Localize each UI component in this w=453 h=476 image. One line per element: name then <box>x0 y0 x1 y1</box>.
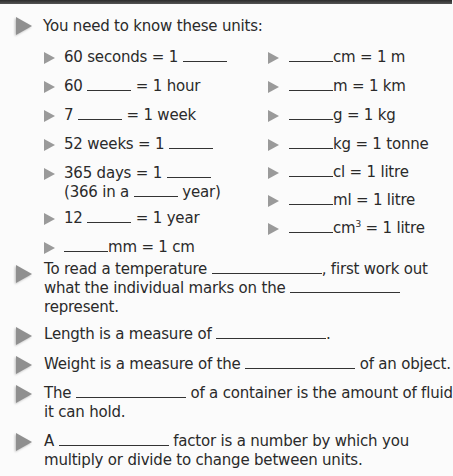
unit-cl: cl = 1 litre <box>289 163 409 182</box>
unit-g: g = 1 kg <box>289 106 396 125</box>
answer-blank[interactable] <box>289 163 333 177</box>
bullet-arrow-icon <box>16 17 32 35</box>
bullet-arrow-icon <box>44 242 55 254</box>
answer-blank[interactable] <box>289 106 333 120</box>
bullet-arrow-icon <box>268 223 279 235</box>
bullet-arrow-icon <box>16 265 32 283</box>
statement-temperature-line3: represent. <box>44 298 119 317</box>
bullet-arrow-icon <box>44 139 55 151</box>
top-bar <box>0 0 452 4</box>
bullet-arrow-icon <box>16 433 32 451</box>
bullet-arrow-icon <box>16 356 32 374</box>
answer-blank[interactable] <box>212 260 322 274</box>
answer-blank[interactable] <box>289 77 333 91</box>
bullet-arrow-icon <box>44 52 55 64</box>
answer-blank[interactable] <box>289 135 333 149</box>
bullet-arrow-icon <box>44 110 55 122</box>
unit-m: m = 1 km <box>289 77 406 96</box>
bullet-arrow-icon <box>268 52 279 64</box>
bullet-arrow-icon <box>44 168 55 180</box>
answer-blank[interactable] <box>87 209 131 223</box>
unit-minutes: 60 = 1 hour <box>64 77 200 96</box>
unit-seconds: 60 seconds = 1 <box>64 48 227 67</box>
unit-cm: cm = 1 m <box>289 48 405 67</box>
unit-mm: mm = 1 cm <box>64 238 195 257</box>
answer-blank[interactable] <box>59 432 169 446</box>
bullet-arrow-icon <box>44 81 55 93</box>
answer-blank[interactable] <box>134 183 178 197</box>
unit-leap-year: (366 in a year) <box>64 183 221 202</box>
statement-capacity-line2: it can hold. <box>44 403 125 422</box>
statement-capacity: The of a container is the amount of flui… <box>44 384 453 403</box>
bullet-arrow-icon <box>268 195 279 207</box>
bullet-arrow-icon <box>268 167 279 179</box>
bullet-arrow-icon <box>16 327 32 345</box>
statement-length: Length is a measure of . <box>44 325 331 344</box>
answer-blank[interactable] <box>289 219 333 233</box>
answer-blank[interactable] <box>167 164 211 178</box>
answer-blank[interactable] <box>216 325 326 339</box>
bullet-arrow-icon <box>268 81 279 93</box>
answer-blank[interactable] <box>87 77 131 91</box>
answer-blank[interactable] <box>78 106 122 120</box>
answer-blank[interactable] <box>76 384 186 398</box>
statement-temperature-line2: what the individual marks on the <box>44 279 400 298</box>
unit-kg: kg = 1 tonne <box>289 135 429 154</box>
unit-cm3: cm3 = 1 litre <box>289 219 425 238</box>
bullet-arrow-icon <box>268 110 279 122</box>
statement-temperature: To read a temperature , first work out <box>44 260 428 279</box>
bullet-arrow-icon <box>268 139 279 151</box>
answer-blank[interactable] <box>183 48 227 62</box>
bullet-arrow-icon <box>44 213 55 225</box>
answer-blank[interactable] <box>64 238 108 252</box>
answer-blank[interactable] <box>289 191 333 205</box>
statement-conversion: A factor is a number by which you <box>44 432 409 451</box>
unit-year-days: 365 days = 1 <box>64 164 211 183</box>
answer-blank[interactable] <box>290 279 400 293</box>
bullet-arrow-icon <box>16 385 32 403</box>
intro-text: You need to know these units: <box>43 17 263 36</box>
unit-months: 12 = 1 year <box>64 209 199 228</box>
answer-blank[interactable] <box>245 355 355 369</box>
unit-ml: ml = 1 litre <box>289 191 415 210</box>
unit-days: 7 = 1 week <box>64 106 196 125</box>
answer-blank[interactable] <box>169 135 213 149</box>
statement-conversion-line2: multiply or divide to change between uni… <box>44 451 363 470</box>
answer-blank[interactable] <box>289 48 333 62</box>
statement-weight: Weight is a measure of the of an object. <box>44 355 451 374</box>
unit-year-weeks: 52 weeks = 1 <box>64 135 213 154</box>
